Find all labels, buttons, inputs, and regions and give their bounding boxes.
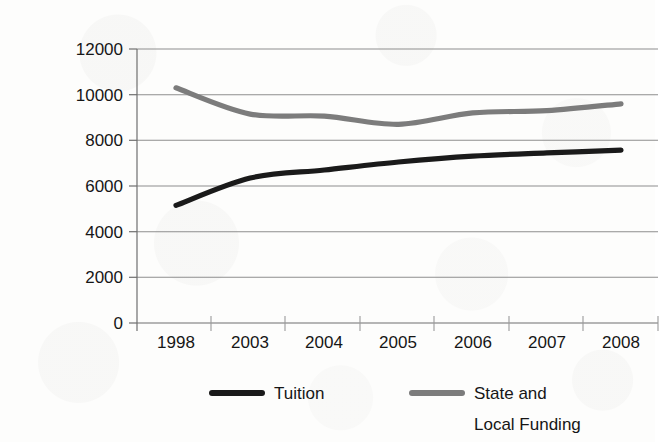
legend-label-state-and-local-funding-line2: Local Funding [474,415,581,434]
y-tick-marks [129,49,137,323]
x-tick-label-2003: 2003 [231,333,269,352]
x-tick-label-2008: 2008 [602,333,640,352]
x-axis-tick-labels: 1998 2003 2004 2005 2006 2007 2008 [157,333,640,352]
chart-legend: Tuition State and Local Funding [212,384,581,434]
data-series-layer [176,88,621,206]
series-line-tuition [176,150,621,205]
line-chart-figure: 12000 10000 8000 6000 4000 2000 0 1998 2… [40,16,615,426]
legend-item-tuition[interactable]: Tuition [212,384,324,403]
x-tick-label-2004: 2004 [305,333,343,352]
legend-label-tuition: Tuition [274,384,324,403]
legend-label-state-and-local-funding-line1: State and [474,384,547,403]
y-tick-label-8000: 8000 [85,131,123,150]
y-tick-label-2000: 2000 [85,268,123,287]
x-tick-label-1998: 1998 [157,333,195,352]
y-tick-label-12000: 12000 [76,40,123,59]
legend-item-state-and-local-funding[interactable]: State and Local Funding [412,384,581,434]
series-line-state-and-local-funding [176,88,621,125]
y-tick-label-0: 0 [114,314,123,333]
y-tick-label-4000: 4000 [85,223,123,242]
x-tick-label-2007: 2007 [528,333,566,352]
y-axis-tick-labels: 12000 10000 8000 6000 4000 2000 0 [76,40,123,333]
x-tick-label-2005: 2005 [379,333,417,352]
y-tick-label-6000: 6000 [85,177,123,196]
chart-canvas: 12000 10000 8000 6000 4000 2000 0 1998 2… [40,16,663,442]
y-tick-label-10000: 10000 [76,86,123,105]
x-tick-label-2006: 2006 [454,333,492,352]
